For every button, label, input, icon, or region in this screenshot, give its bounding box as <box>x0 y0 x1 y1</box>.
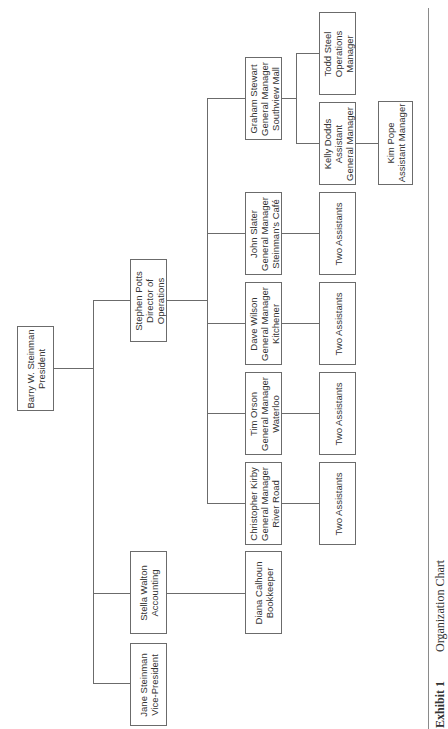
node-title: Manager <box>343 30 354 76</box>
node-title: General Manager <box>258 377 269 451</box>
node-name: Stephen Potts <box>132 271 143 331</box>
connector-dave <box>207 323 245 324</box>
node-title: Bookkeeper <box>264 561 275 624</box>
connector-john <box>207 233 245 234</box>
node-name: Jane Steinman <box>138 653 149 716</box>
node-title: Vice-President <box>149 653 160 716</box>
bus-graham <box>296 53 297 144</box>
node-name: Two Assistants <box>332 202 343 265</box>
node-name: Two Assistants <box>332 472 343 535</box>
node-name: John Slater <box>247 197 258 271</box>
node-title: General Manager <box>258 287 269 361</box>
node-location: River Road <box>269 467 280 541</box>
node-name: Kim Pope <box>385 104 396 183</box>
connector-kelly-kim <box>356 143 378 144</box>
exhibit-label: Exhibit 1 <box>433 681 448 728</box>
node-stephen: Stephen PottsDirector ofOperations <box>130 259 167 342</box>
connector-tim <box>207 413 245 414</box>
connector-jane <box>93 683 130 684</box>
node-todd: Todd SteelOperationsManager <box>319 12 356 95</box>
node-name: Dave Wilson <box>247 287 258 361</box>
connector-todd <box>296 53 319 54</box>
connector-graham-out <box>282 98 296 99</box>
node-diana: Diana CalhounBookkeeper <box>245 551 282 634</box>
caption-rule <box>428 8 429 729</box>
node-jane: Jane SteinmanVice-President <box>130 643 167 726</box>
node-location: Waterloo <box>269 377 280 451</box>
connector-christopher-assist <box>282 503 319 504</box>
node-tim: Tim OrsonGeneral ManagerWaterloo <box>245 372 282 455</box>
node-christopher: Christopher KirbyGeneral ManagerRiver Ro… <box>245 462 282 545</box>
node-graham: Graham StewartGeneral ManagerSouthview M… <box>245 57 282 140</box>
node-name: Two Assistants <box>332 292 343 355</box>
node-name: Todd Steel <box>321 30 332 76</box>
node-title: Accounting <box>149 565 160 621</box>
node-kim: Kim PopeAssistant Manager <box>378 101 413 185</box>
node-title: Operations <box>332 30 343 76</box>
connector-stella-diana <box>166 593 245 594</box>
node-location: Southview Mall <box>269 62 280 136</box>
node-name: Kelly Dodds <box>321 107 332 181</box>
node-assistants-john: Two Assistants <box>319 192 356 275</box>
node-barry: Barry W. SteinmanPresident <box>17 326 54 411</box>
bus-level2 <box>207 98 208 504</box>
node-title: President <box>36 329 47 408</box>
node-name: Diana Calhoun <box>253 561 264 624</box>
node-location: Kitchener <box>269 287 280 361</box>
node-name: Graham Stewart <box>247 62 258 136</box>
connector-tim-assist <box>282 413 319 414</box>
node-title: General Manager <box>258 62 269 136</box>
connector-stella <box>93 593 130 594</box>
node-title: Director of <box>143 271 154 331</box>
connector-kelly <box>296 143 319 144</box>
node-name: Tim Orson <box>247 377 258 451</box>
node-name: Stella Walton <box>138 565 149 621</box>
exhibit-title: Organization Chart <box>433 560 448 652</box>
node-title: Assistant <box>332 107 343 181</box>
connector-stephen-out <box>166 300 207 301</box>
node-title: General Manager <box>258 467 269 541</box>
connector-john-assist <box>282 233 319 234</box>
node-name: Two Assistants <box>332 382 343 445</box>
connector-stephen <box>93 300 130 301</box>
bus-level1 <box>93 300 94 684</box>
node-stella: Stella WaltonAccounting <box>130 551 167 634</box>
connector-christopher <box>207 503 245 504</box>
node-title: Assistant Manager <box>396 104 407 183</box>
node-kelly: Kelly DoddsAssistantGeneral Manager <box>319 102 356 185</box>
node-assistants-dave: Two Assistants <box>319 282 356 365</box>
connector-barry <box>53 368 93 369</box>
connector-graham <box>207 98 245 99</box>
node-dave: Dave WilsonGeneral ManagerKitchener <box>245 282 282 365</box>
node-title: General Manager <box>258 197 269 271</box>
node-name: Barry W. Steinman <box>25 329 36 408</box>
node-name: Christopher Kirby <box>247 467 258 541</box>
node-assistants-christopher: Two Assistants <box>319 462 356 545</box>
node-john: John SlaterGeneral ManagerSteinman's Caf… <box>245 192 282 275</box>
node-title: Operations <box>154 271 165 331</box>
node-location: Steinman's Café <box>269 197 280 271</box>
node-assistants-tim: Two Assistants <box>319 372 356 455</box>
node-title: General Manager <box>343 107 354 181</box>
connector-dave-assist <box>282 323 319 324</box>
